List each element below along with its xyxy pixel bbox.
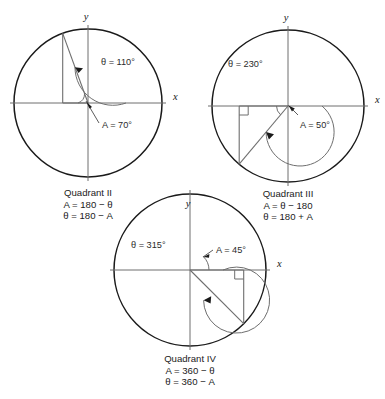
theta-arc-arrowhead xyxy=(266,132,274,140)
reference-angle-label: A = 50° xyxy=(300,120,330,130)
panel-formula-2: θ = 180 + A xyxy=(263,211,313,222)
theta-arc xyxy=(266,106,334,166)
reference-angle-arc xyxy=(277,106,281,115)
terminal-ray xyxy=(190,270,244,324)
reference-angle-arc xyxy=(203,257,209,270)
theta-label: θ = 110° xyxy=(101,57,135,67)
panel-formula-2: θ = 180 − A xyxy=(63,210,113,221)
panel-caption: Quadrant III xyxy=(263,188,314,199)
y-axis-label: y xyxy=(185,198,191,209)
reference-angle-label: A = 70° xyxy=(102,120,132,130)
panel-formula-2: θ = 360 − A xyxy=(165,376,215,387)
theta-label: θ = 230° xyxy=(228,59,263,69)
panel-caption: Quadrant IV xyxy=(164,353,216,364)
x-axis-label: x xyxy=(374,94,380,105)
panel-formula-1: A = 360 − θ xyxy=(165,365,214,376)
panel-caption: Quadrant II xyxy=(64,187,112,198)
panel-formula-1: A = 180 − θ xyxy=(63,199,112,210)
panel-formula-1: A = θ − 180 xyxy=(263,200,312,211)
reference-angle-arc xyxy=(78,94,85,103)
panel-quadrant-4: y x θ = 315° A = 45° Quadrant IV A = 360… xyxy=(110,190,282,387)
y-axis-label: y xyxy=(83,11,89,22)
reference-angle-figure: y x θ = 110° A = 70° Quadrant II A = 180… xyxy=(0,0,385,399)
x-axis-label: x xyxy=(172,91,178,102)
reference-angle-label: A = 45° xyxy=(216,245,246,255)
theta-arc-arrowhead xyxy=(204,296,212,303)
panel-quadrant-2: y x θ = 110° A = 70° Quadrant II A = 180… xyxy=(10,11,178,221)
right-angle-marker xyxy=(235,270,244,279)
theta-label: θ = 315° xyxy=(131,240,166,250)
y-axis-label: y xyxy=(283,12,289,23)
panel-quadrant-3: y x θ = 230° A = 50° Quadrant III A = θ … xyxy=(208,12,380,222)
x-axis-label: x xyxy=(276,258,282,269)
right-angle-marker xyxy=(239,106,248,115)
